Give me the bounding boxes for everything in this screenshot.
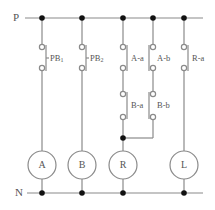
rail-n-label: N (15, 187, 23, 198)
junction-p-l (181, 15, 187, 21)
junction-p-a (39, 15, 45, 21)
junction-n-a (39, 190, 45, 196)
pb1-label: PB1 (50, 54, 63, 63)
coil-b-label: B (79, 160, 86, 170)
bb-terminal-bottom (150, 114, 155, 119)
ladder-circuit-diagram (0, 0, 215, 210)
pb1-terminal-bottom (39, 65, 44, 70)
pb2-label: PB2 (90, 54, 103, 63)
coil-r-label: R (120, 160, 127, 170)
pb1-label-sub: 1 (60, 57, 63, 63)
pb1-terminal-top (39, 44, 44, 49)
bb-terminal-top (150, 91, 155, 96)
pb1-label-main: PB (50, 53, 60, 63)
aa-terminal-top (120, 44, 125, 49)
coil-l-label: L (181, 160, 187, 170)
junction-n-r (120, 190, 126, 196)
junction-p-branch (150, 15, 156, 21)
rail-p-label: P (13, 12, 19, 23)
coil-a-label: A (38, 160, 45, 170)
ba-terminal-bottom (120, 114, 125, 119)
pb2-terminal-top (79, 44, 84, 49)
junction-branch-merge (120, 135, 126, 141)
junction-n-b (79, 190, 85, 196)
bb-label: B-b (157, 101, 170, 110)
ba-label: B-a (131, 101, 143, 110)
ab-label: A-b (157, 54, 170, 63)
ab-terminal-top (150, 44, 155, 49)
ra-terminal-bottom (181, 65, 186, 70)
junction-n-l (181, 190, 187, 196)
pb2-label-main: PB (90, 53, 100, 63)
ra-terminal-top (181, 44, 186, 49)
junction-p-b (79, 15, 85, 21)
aa-label: A-a (131, 54, 144, 63)
ra-label: R-a (192, 54, 204, 63)
pb2-terminal-bottom (79, 65, 84, 70)
junction-p-r (120, 15, 126, 21)
ab-terminal-bottom (150, 65, 155, 70)
ba-terminal-top (120, 91, 125, 96)
pb2-label-sub: 2 (100, 57, 103, 63)
aa-terminal-bottom (120, 65, 125, 70)
